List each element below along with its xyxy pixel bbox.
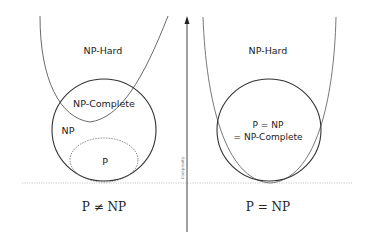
right-caption: P = NP [246,200,290,214]
axis-arrowhead-icon [185,16,190,24]
left-p-label: P [102,156,108,167]
right-merged-circle [217,79,321,181]
right-merged-label-line1: P = NP [253,120,284,130]
complexity-diagram: NP-Hard NP-Complete NP P P ≠ NP Complexi… [0,0,371,237]
left-caption: P ≠ NP [82,200,126,214]
diagram-canvas: NP-Hard NP-Complete NP P P ≠ NP Complexi… [0,0,371,237]
right-np-hard-curve [203,17,336,183]
axis-label: Complexity [180,156,185,179]
right-np-hard-label: NP-Hard [249,45,288,56]
right-merged-label-line2: = NP-Complete [234,132,303,142]
left-np-hard-label: NP-Hard [84,45,123,56]
left-np-complete-label: NP-Complete [73,98,135,109]
left-np-label: NP [62,125,75,136]
